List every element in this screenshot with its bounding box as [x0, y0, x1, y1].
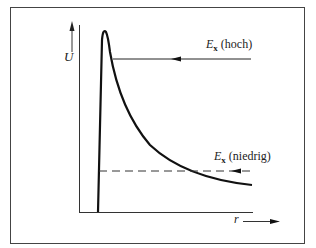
level-low-qualifier: (niedrig) — [229, 149, 271, 163]
diagram-canvas — [0, 0, 316, 248]
level-high-subscript: x — [213, 43, 218, 53]
x-axis-label: r — [234, 212, 239, 227]
x-axis-arrowhead-icon — [270, 219, 280, 224]
level-low-label: Ex (niedrig) — [214, 149, 271, 164]
level-low-arrow-icon — [231, 169, 241, 174]
level-low-subscript: x — [221, 155, 226, 165]
y-axis-label: U — [64, 49, 73, 65]
level-high-qualifier: (hoch) — [221, 37, 252, 51]
level-high-label: Ex (hoch) — [206, 37, 252, 52]
y-axis-arrowhead-icon — [70, 21, 75, 31]
level-high-arrow-icon — [171, 57, 181, 62]
outer-frame — [11, 8, 305, 244]
